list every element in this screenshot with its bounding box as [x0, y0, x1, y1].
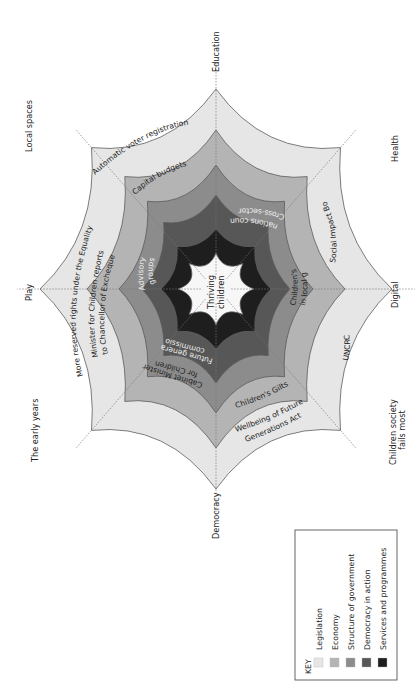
key-label-services-and-programmes: Services and programmes	[379, 548, 388, 650]
key-label-economy: Economy	[331, 614, 340, 650]
key-swatch-legislation	[314, 658, 323, 667]
key-swatch-democracy-in-action	[362, 658, 371, 667]
axis-label-local-spaces: Local spaces	[24, 100, 34, 152]
key-swatch-structure-of-government	[346, 658, 355, 667]
axis-label-play: Play	[24, 284, 34, 301]
center-label-2: children	[216, 275, 226, 309]
key-label-legislation: Legislation	[315, 608, 324, 650]
child-wellbeing-web-diagram: Education Health Digital Children societ…	[0, 0, 420, 693]
key-label-democracy-in-action: Democracy in action	[363, 570, 372, 650]
key-swatch-economy	[330, 658, 339, 667]
axis-label-children-society-fails-most-2: fails most	[397, 409, 407, 450]
axis-label-democracy: Democracy	[211, 492, 221, 539]
axis-label-digital: Digital	[390, 281, 400, 308]
key-title: KEY	[304, 659, 313, 674]
axis-label-education: Education	[211, 31, 221, 72]
key-swatch-services-and-programmes	[378, 658, 387, 667]
center-label-1: Thriving	[206, 275, 216, 310]
axis-label-the-early-years: The early years	[30, 398, 40, 463]
key-legend: KEY LegislationEconomyStructure of gover…	[295, 530, 397, 680]
axis-label-health: Health	[390, 135, 400, 162]
key-label-structure-of-government: Structure of government	[347, 554, 356, 650]
